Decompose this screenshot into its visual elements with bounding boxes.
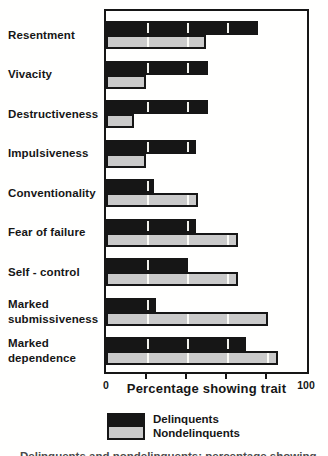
gridline-tick (187, 274, 189, 284)
gridline-tick (147, 300, 149, 310)
category-label-impulsiveness: Impulsiveness (8, 146, 108, 161)
gridline-tick (147, 63, 149, 73)
gridline-tick (147, 235, 149, 245)
category-label-vivacity: Vivacity (8, 67, 108, 82)
bar-nondelinquents-resentment (106, 35, 206, 49)
category-label-self-control: Self - control (8, 265, 108, 280)
bar-delinquents-vivacity (106, 61, 208, 75)
gridline-tick (227, 353, 229, 363)
category-label-conventionality: Conventionality (8, 186, 108, 201)
gridline-tick (147, 260, 149, 270)
x-axis-title: Percentage showing trait (104, 381, 309, 396)
legend-swatch-box (107, 413, 145, 440)
nondelinquents-swatch (109, 427, 143, 438)
gridline-tick (187, 63, 189, 73)
plot-area (104, 9, 309, 374)
bar-delinquents-marked-submissiveness (106, 298, 156, 312)
gridline-tick (227, 23, 229, 33)
bar-nondelinquents-impulsiveness (106, 154, 146, 168)
bar-nondelinquents-destructiveness (106, 114, 134, 128)
gridline-tick (187, 142, 189, 152)
gridline-tick (187, 221, 189, 231)
gridline-tick (147, 102, 149, 112)
bar-delinquents-destructiveness (106, 100, 208, 114)
gridline-tick (187, 195, 189, 205)
gridline-tick (147, 339, 149, 349)
trait-bar-chart-figure: ResentmentVivacityDestructivenessImpulsi… (0, 0, 328, 456)
bar-nondelinquents-vivacity (106, 75, 146, 89)
category-label-destructiveness: Destructiveness (8, 107, 108, 122)
gridline-tick (227, 235, 229, 245)
x-axis-tick (265, 374, 267, 379)
gridline-tick (147, 353, 149, 363)
gridline-tick (187, 37, 189, 47)
category-label-fear-of-failure: Fear of failure (8, 225, 108, 240)
gridline-tick (187, 339, 189, 349)
gridline-tick (187, 23, 189, 33)
legend: Delinquents Nondelinquents (0, 412, 328, 442)
gridline-tick (147, 142, 149, 152)
x-axis-tick (225, 374, 227, 379)
delinquents-swatch (109, 415, 143, 427)
bar-delinquents-conventionality (106, 179, 154, 193)
category-label-marked-dependence: Marked dependence (8, 336, 108, 366)
gridline-tick (267, 353, 269, 363)
gridline-tick (187, 235, 189, 245)
bar-nondelinquents-marked-submissiveness (106, 312, 268, 326)
gridline-tick (147, 221, 149, 231)
x-axis-tick (145, 374, 147, 379)
bar-nondelinquents-marked-dependence (106, 351, 278, 365)
gridline-tick (227, 314, 229, 324)
gridline-tick (187, 314, 189, 324)
bar-nondelinquents-conventionality (106, 193, 198, 207)
category-label-resentment: Resentment (8, 28, 108, 43)
gridline-tick (147, 23, 149, 33)
bar-nondelinquents-fear-of-failure (106, 233, 238, 247)
legend-label-delinquents: Delinquents (153, 412, 240, 426)
gridline-tick (147, 37, 149, 47)
gridline-tick (147, 195, 149, 205)
gridline-tick (187, 353, 189, 363)
clipped-caption: Delinquents and nondelinquents: percenta… (20, 449, 320, 456)
gridline-tick (147, 314, 149, 324)
legend-label-nondelinquents: Nondelinquents (153, 426, 240, 440)
gridline-tick (147, 274, 149, 284)
x-axis-tick (185, 374, 187, 379)
bar-delinquents-fear-of-failure (106, 219, 196, 233)
gridline-tick (227, 339, 229, 349)
gridline-tick (227, 274, 229, 284)
bar-delinquents-self-control (106, 258, 188, 272)
bar-delinquents-resentment (106, 21, 258, 35)
category-label-marked-submissiveness: Marked submissiveness (8, 297, 108, 327)
gridline-tick (187, 102, 189, 112)
legend-labels: Delinquents Nondelinquents (153, 412, 240, 440)
bar-delinquents-marked-dependence (106, 337, 246, 351)
gridline-tick (147, 181, 149, 191)
bar-nondelinquents-self-control (106, 272, 238, 286)
bar-delinquents-impulsiveness (106, 140, 196, 154)
category-labels: ResentmentVivacityDestructivenessImpulsi… (0, 0, 104, 400)
